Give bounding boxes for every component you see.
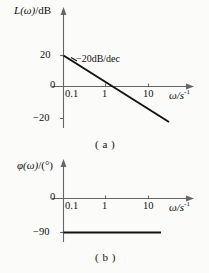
plot-b-ytick-label-minus90: −90 — [33, 227, 49, 238]
plot-a-y-axis-arg: (ω) — [20, 4, 35, 16]
plot-b-y-axis-title: φ(ω)/(°) — [17, 160, 53, 171]
plot-b-y-axis-arg: (ω) — [23, 159, 38, 171]
plot-a-ytick-label-minus20: −20 — [33, 113, 49, 124]
plot-b-x-axis-title-exponent: -1 — [184, 200, 190, 208]
plot-b-x-axis-title: ω/s-1 — [169, 201, 190, 213]
plot-a-caption: ( a ) — [95, 139, 115, 150]
plot-b-caption: ( b ) — [95, 252, 116, 263]
plot-a-axes — [52, 7, 194, 128]
plot-a-slope-annotation: −20dB/dec — [76, 54, 120, 64]
plot-a-y-axis-title: L(ω)/dB — [14, 5, 51, 16]
plot-a-ytick-label-20: 20 — [40, 50, 51, 61]
plot-b-xtick-label-10: 10 — [143, 201, 154, 212]
plot-a-xtick-label-10: 10 — [143, 89, 154, 100]
bode-plot-figure: L(ω)/dB 20 0 −20 0.1 1 10 −20dB/dec ω/s-… — [0, 0, 209, 273]
plot-a-x-axis-title-exponent: -1 — [184, 88, 190, 96]
plot-b-xtick-label-0.1: 0.1 — [65, 201, 78, 212]
plot-a-x-axis-title-text: ω/s — [169, 89, 184, 101]
plot-a-xtick-label-1: 1 — [102, 89, 107, 100]
plot-a-ytick-label-0: 0 — [50, 80, 55, 91]
plot-b-y-axis-unit: /(°) — [38, 159, 53, 171]
plot-b-y-axis-arrow — [61, 159, 67, 167]
plot-a-xtick-label-0.1: 0.1 — [65, 89, 78, 100]
plot-a-x-axis-title: ω/s-1 — [169, 89, 190, 101]
figure-canvas — [0, 0, 209, 273]
plot-a-y-axis-unit: /dB — [35, 4, 51, 16]
plot-b-x-axis-title-text: ω/s — [169, 201, 184, 213]
plot-a-y-axis-arrow — [61, 7, 67, 15]
plot-b-ytick-label-0: 0 — [50, 192, 55, 203]
plot-b-xtick-label-1: 1 — [102, 201, 107, 212]
